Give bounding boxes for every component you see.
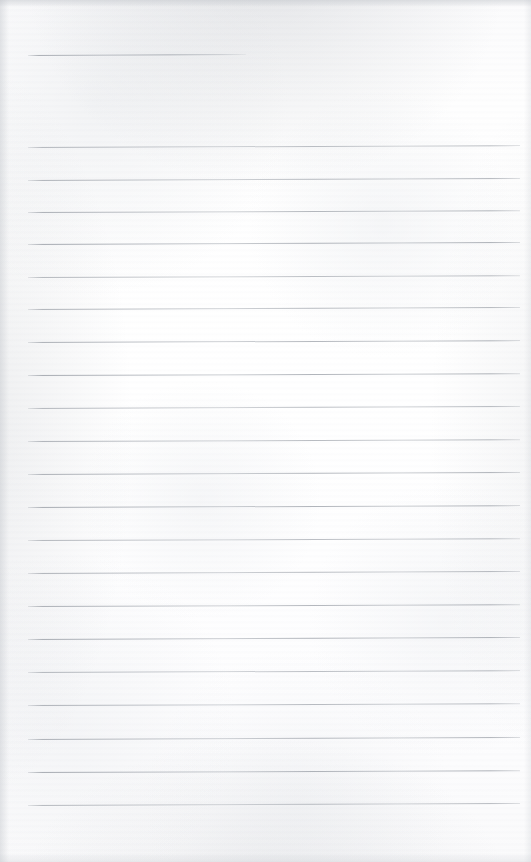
ruled-line bbox=[28, 737, 520, 740]
header-rule bbox=[28, 54, 246, 56]
ruled-line bbox=[28, 703, 520, 706]
scan-edge-shadow-bottom bbox=[0, 853, 531, 862]
paper-texture-overlay bbox=[0, 0, 531, 862]
ruled-line bbox=[28, 803, 520, 806]
ruled-line bbox=[28, 571, 520, 574]
scanned-page bbox=[0, 0, 531, 862]
ruled-line bbox=[28, 604, 520, 607]
scan-edge-shadow-right bbox=[524, 0, 531, 862]
ruled-line bbox=[28, 242, 520, 245]
ruled-line bbox=[28, 177, 520, 180]
ruled-line bbox=[28, 538, 520, 541]
ruled-line bbox=[28, 505, 520, 508]
ruled-line bbox=[28, 210, 520, 213]
ruled-line bbox=[28, 637, 520, 640]
ruled-line bbox=[28, 373, 520, 376]
ruled-line bbox=[28, 145, 520, 148]
ruled-line bbox=[28, 439, 520, 442]
ruled-line bbox=[28, 670, 520, 673]
ruled-line bbox=[28, 770, 520, 773]
scan-edge-shadow-left bbox=[0, 0, 9, 862]
ruled-line bbox=[28, 340, 520, 343]
scan-edge-shadow-top bbox=[0, 0, 531, 7]
ruled-line bbox=[28, 472, 520, 475]
ruled-line bbox=[28, 275, 520, 278]
ruled-line bbox=[28, 406, 520, 409]
ruled-line bbox=[28, 307, 520, 310]
